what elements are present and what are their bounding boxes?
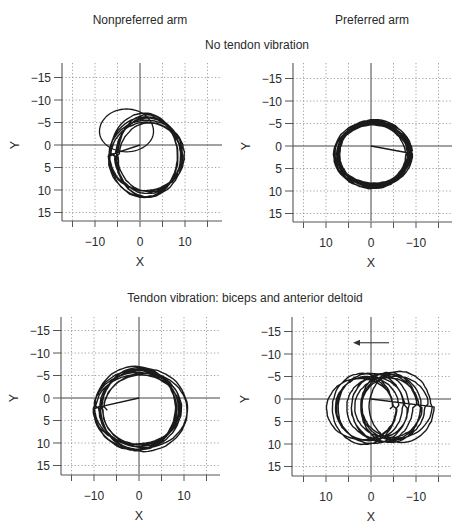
x-tick-label: 10 [177,489,191,503]
x-tick-label: 0 [137,235,144,249]
y-tick-label: −10 [31,94,52,108]
panel-bottom-right-preferred-vibration: −15−10−5051015100−10XY [238,317,451,524]
y-tick-label: 15 [269,207,283,221]
figure-canvas: −15−10−5051015−10010XY −15−10−5051015100… [0,0,462,531]
y-tick-label: 10 [37,437,51,451]
y-tick-label: 15 [38,206,52,220]
y-axis-title: Y [8,140,22,149]
y-tick-label: 5 [275,162,282,176]
y-tick-label: −15 [262,72,283,86]
x-tick-label: 10 [319,236,333,250]
y-tick-label: 0 [275,140,282,154]
y-tick-label: −15 [31,71,52,85]
x-axis-title: X [367,510,376,524]
y-tick-label: 5 [44,161,51,175]
y-tick-label: 5 [274,415,281,429]
y-axis-title: Y [7,393,21,402]
panel-top-left-nonpreferred-no-vibration: −15−10−5051015−10010XY [8,63,222,269]
y-tick-label: −5 [37,116,51,130]
grid [293,63,452,222]
y-tick-label: 5 [43,414,50,428]
y-tick-label: 15 [37,459,51,473]
x-axis-title: X [136,255,145,269]
y-axis-title: Y [238,394,252,403]
x-tick-label: 10 [319,490,333,504]
panel-bottom-left-nonpreferred-vibration: −15−10−5051015−10010XY [7,317,220,523]
y-tick-label: −5 [267,370,281,384]
y-tick-label: −10 [262,95,283,109]
y-tick-label: 0 [43,392,50,406]
y-tick-label: −5 [268,117,282,131]
y-axis-title: Y [239,141,253,150]
x-tick-label: 0 [368,236,375,250]
y-tick-label: 10 [269,185,283,199]
y-tick-label: −10 [30,347,51,361]
x-tick-label: 10 [178,235,192,249]
x-tick-label: −10 [406,236,427,250]
y-tick-label: −15 [261,325,282,339]
y-tick-label: 0 [44,139,51,153]
y-tick-label: −15 [30,324,51,338]
x-axis-title: X [367,256,376,270]
hand-trajectory [333,120,412,189]
x-tick-label: 0 [136,489,143,503]
x-tick-label: 0 [368,490,375,504]
y-tick-label: −5 [36,369,50,383]
x-axis-title: X [135,509,144,523]
x-tick-label: −10 [406,490,427,504]
hand-trajectory [327,371,435,444]
x-tick-label: −10 [85,235,106,249]
hand-trajectory [108,113,184,197]
y-tick-label: −10 [261,348,282,362]
y-tick-label: 10 [38,184,52,198]
y-tick-label: 10 [268,438,282,452]
x-tick-label: −10 [84,489,105,503]
hand-trajectory [93,366,187,452]
panel-top-right-preferred-no-vibration: −15−10−5051015100−10XY [239,63,452,270]
y-tick-label: 0 [274,393,281,407]
y-tick-label: 15 [268,460,282,474]
